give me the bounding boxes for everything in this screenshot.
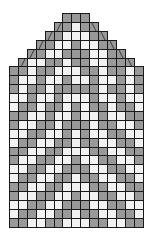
chart-cell-contrast (134, 218, 144, 228)
right-decrease-icon (117, 50, 125, 58)
right-decrease-icon (90, 23, 98, 31)
right-decrease-icon (99, 32, 107, 40)
knitting-chart (10, 14, 144, 229)
right-decrease-icon (126, 59, 134, 67)
left-decrease-icon (19, 59, 27, 67)
left-decrease-icon (37, 41, 45, 49)
left-decrease-icon (55, 23, 63, 31)
left-decrease-icon (28, 50, 36, 58)
right-decrease-icon (108, 41, 116, 49)
left-decrease-icon (46, 32, 54, 40)
